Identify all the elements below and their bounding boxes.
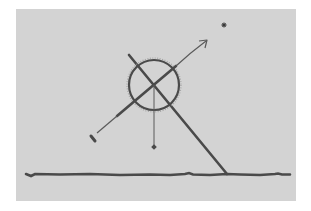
eyepiece	[91, 136, 95, 141]
star-icon	[221, 22, 226, 27]
line-of-sight	[176, 41, 206, 66]
support-pole	[129, 55, 227, 174]
ground-line	[26, 173, 290, 176]
plumb-bob-icon	[151, 144, 157, 150]
line-of-sight-lower	[97, 116, 117, 133]
sighting-instrument-diagram	[0, 0, 311, 211]
